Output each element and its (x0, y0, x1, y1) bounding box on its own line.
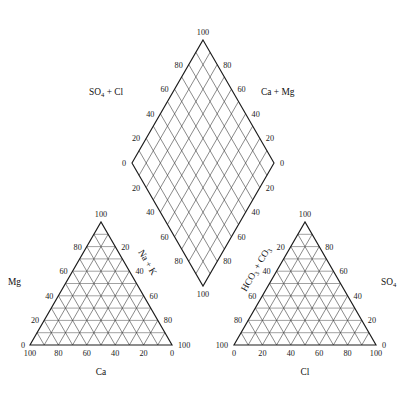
diamond-upper-left-tick-60: 60 (160, 85, 168, 94)
tick-label-layer: 0204060801001008060402002040608010002040… (21, 28, 386, 358)
cation-ca-tick-100: 100 (24, 349, 36, 358)
cation-mg-tick-80: 80 (74, 243, 82, 252)
anion-cl-tick-40: 40 (287, 349, 295, 358)
anion-hco3-tick-40: 40 (262, 267, 270, 276)
anion-triangle-panel (234, 222, 376, 345)
diamond-lower-left-tick-60: 60 (160, 233, 168, 242)
anion-so4-tick-80: 80 (325, 243, 333, 252)
cation-mg-tick-60: 60 (59, 267, 67, 276)
cation-mg-title: Mg (8, 277, 21, 287)
diamond-lower-right-tick-60: 60 (237, 233, 245, 242)
anion-so4-title: SO4 (381, 277, 397, 288)
anion-cl-tick-60: 60 (315, 349, 323, 358)
cation-gridline-left (80, 259, 130, 345)
diamond-lower-right-tick-20: 20 (266, 184, 274, 193)
cation-gridline-left (66, 284, 102, 346)
cation-ca-tick-20: 20 (140, 349, 148, 358)
cation-mg-tick-40: 40 (45, 292, 53, 301)
diamond-upper-right-tick-0: 0 (280, 159, 284, 168)
diamond-upper-left-tick-80: 80 (175, 61, 183, 70)
cation-mg-tick-20: 20 (31, 316, 39, 325)
diamond-upper-right-tick-40: 40 (252, 110, 260, 119)
diamond-field-panel (132, 40, 274, 286)
diamond-upper-left-tick-0: 0 (122, 159, 126, 168)
diamond-upper-right-tick-20: 20 (266, 134, 274, 143)
diamond-upper-left-tick-20: 20 (132, 134, 140, 143)
anion-gridline-right (362, 333, 369, 345)
cation-gridline-right (129, 308, 150, 345)
diamond-so4-cl-title: SO4 + Cl (89, 87, 124, 98)
anion-cl-tick-100: 100 (370, 349, 382, 358)
anion-gridline-left (255, 308, 276, 345)
anion-so4-tick-60: 60 (339, 267, 347, 276)
diamond-lower-left-tick-20: 20 (132, 184, 140, 193)
anion-hco3-tick-60: 60 (248, 292, 256, 301)
cation-gridline-right (73, 259, 123, 345)
diamond-lower-right-tick-40: 40 (252, 208, 260, 217)
anion-gridline-right (305, 284, 341, 346)
diamond-upper-left-tick-40: 40 (146, 110, 154, 119)
anion-hco3-tick-20: 20 (277, 243, 285, 252)
piper-diagram-figure: 0204060801001008060402002040608010002040… (0, 0, 404, 397)
diamond-lower-right-tick-80: 80 (223, 257, 231, 266)
cation-ca-tick-60: 60 (83, 349, 91, 358)
anion-hco3-tick-80: 80 (234, 316, 242, 325)
anion-gridline-right (333, 308, 354, 345)
cation-nak-tick-80: 80 (164, 316, 172, 325)
cation-triangle-panel (30, 222, 172, 345)
cation-ca-title: Ca (96, 367, 107, 377)
diamond-upper-right-tick-60: 60 (237, 85, 245, 94)
axis-title-layer: SO4 + Cl Ca + Mg Mg Ca Na + K Cl SO4 HCO… (8, 87, 397, 377)
anion-so4-tick-100: 100 (299, 210, 311, 219)
cation-ca-tick-80: 80 (54, 349, 62, 358)
anion-so4-tick-0: 0 (382, 341, 386, 350)
diamond-bottom-tick-100: 100 (197, 290, 209, 299)
cation-nak-tick-60: 60 (150, 292, 158, 301)
anion-cl-tick-0: 0 (232, 349, 236, 358)
cation-gridline-left (37, 333, 44, 345)
cation-gridline-right (101, 284, 137, 346)
diamond-top-tick-100: 100 (197, 28, 209, 37)
anion-so4-tick-20: 20 (368, 316, 376, 325)
cation-gridline-right (158, 333, 165, 345)
cation-mg-tick-100: 100 (95, 210, 107, 219)
anion-so4-tick-40: 40 (354, 292, 362, 301)
anion-gridline-left (284, 259, 334, 345)
anion-cl-tick-80: 80 (344, 349, 352, 358)
diamond-field-grid (139, 52, 267, 273)
anion-gridline-left (270, 284, 306, 346)
diamond-lower-left-tick-40: 40 (146, 208, 154, 217)
diamond-ca-mg-title: Ca + Mg (261, 87, 295, 97)
cation-nak-tick-40: 40 (135, 267, 143, 276)
cation-gridline-left (51, 308, 72, 345)
diamond-upper-right-tick-80: 80 (223, 61, 231, 70)
anion-hco3-tick-100: 100 (216, 341, 228, 350)
anion-gridline-left (241, 333, 248, 345)
cation-nak-tick-20: 20 (121, 243, 129, 252)
diamond-lower-left-tick-80: 80 (175, 257, 183, 266)
anion-cl-title: Cl (301, 367, 310, 377)
anion-cl-tick-20: 20 (258, 349, 266, 358)
cation-nak-tick-100: 100 (178, 341, 190, 350)
piper-diagram-canvas: 0204060801001008060402002040608010002040… (0, 0, 404, 397)
cation-ca-tick-0: 0 (170, 349, 174, 358)
cation-ca-tick-40: 40 (111, 349, 119, 358)
anion-gridline-right (277, 259, 327, 345)
